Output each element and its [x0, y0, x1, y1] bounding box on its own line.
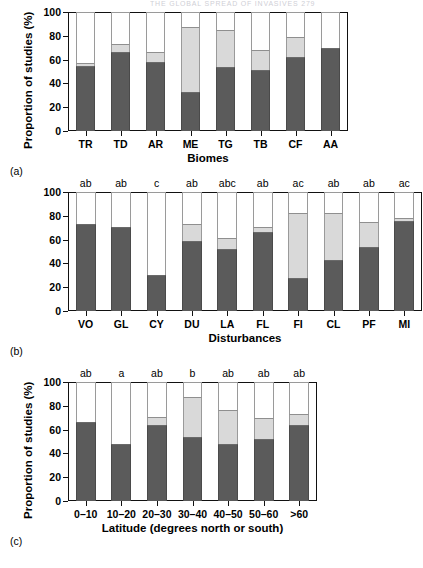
x-tick	[296, 131, 297, 136]
stacked-bar[interactable]	[147, 192, 167, 311]
stacked-bar[interactable]	[182, 192, 202, 311]
bar-slot[interactable]	[174, 192, 209, 311]
bar-slot[interactable]	[103, 192, 138, 311]
bar-segment-light-gray	[286, 37, 306, 57]
bar-slot[interactable]	[139, 382, 175, 501]
bar-segment-white	[218, 382, 238, 410]
x-tick-label: TD	[114, 138, 128, 150]
stacked-bar[interactable]	[286, 12, 306, 131]
bar-segment-white	[394, 192, 414, 218]
bar-segment-white	[183, 382, 203, 397]
stacked-bar[interactable]	[254, 382, 274, 501]
bar-segment-white	[146, 12, 166, 52]
x-tick	[86, 501, 87, 506]
bar-slot[interactable]	[281, 382, 317, 501]
bar-slot[interactable]	[210, 192, 245, 311]
bar-slot[interactable]	[68, 382, 104, 501]
bar-segment-dark-gray	[146, 62, 166, 131]
bar-segment-light-gray	[359, 222, 379, 247]
bar-segment-white	[288, 192, 308, 213]
stacked-bar[interactable]	[76, 12, 96, 131]
stacked-bar[interactable]	[218, 382, 238, 501]
stacked-bar[interactable]	[111, 12, 131, 131]
x-tick-label: CF	[289, 138, 303, 150]
bar-slot[interactable]	[175, 382, 211, 501]
bar-slot[interactable]	[104, 382, 140, 501]
stacked-bar[interactable]	[111, 382, 131, 501]
stacked-bar[interactable]	[359, 192, 379, 311]
bar-slot[interactable]	[316, 192, 351, 311]
bar-group	[68, 192, 422, 311]
y-tick-label: 60	[49, 424, 61, 436]
bar-slot[interactable]	[68, 12, 103, 131]
bar-slot[interactable]	[208, 12, 243, 131]
stacked-bar[interactable]	[321, 12, 341, 131]
x-tick	[192, 311, 193, 316]
bar-slot[interactable]	[210, 382, 246, 501]
y-tick-label: 100	[43, 186, 61, 198]
bar-slot[interactable]	[313, 12, 348, 131]
bar-segment-dark-gray	[183, 437, 203, 501]
x-tick-label: LA	[220, 318, 234, 330]
x-tick-label: MI	[398, 318, 410, 330]
x-tick-label: TG	[218, 138, 233, 150]
y-tick-label: 0	[55, 125, 61, 137]
bar-slot[interactable]	[387, 192, 422, 311]
bar-segment-light-gray	[289, 414, 309, 425]
bar-segment-dark-gray	[147, 425, 167, 501]
bar-segment-white	[321, 12, 341, 48]
bar-segment-white	[147, 382, 167, 417]
bar-segment-dark-gray	[288, 278, 308, 311]
stacked-bar[interactable]	[76, 192, 96, 311]
stacked-bar[interactable]	[251, 12, 271, 131]
x-tick-label: 40–50	[213, 508, 242, 520]
y-tick-label: 0	[55, 495, 61, 507]
bar-segment-light-gray	[216, 30, 236, 67]
bar-group	[68, 12, 348, 131]
stacked-bar[interactable]	[253, 192, 273, 311]
stacked-bar[interactable]	[217, 192, 237, 311]
stacked-bar[interactable]	[324, 192, 344, 311]
panel-b: Proportion of studies (%)020406080100VOa…	[0, 192, 423, 378]
stacked-bar[interactable]	[288, 192, 308, 311]
x-tick	[263, 311, 264, 316]
stacked-bar[interactable]	[76, 382, 96, 501]
y-axis-label: Proportion of studies (%)	[22, 30, 36, 149]
bar-segment-dark-gray	[286, 57, 306, 131]
stacked-bar[interactable]	[289, 382, 309, 501]
stacked-bar[interactable]	[183, 382, 203, 501]
stacked-bar[interactable]	[146, 12, 166, 131]
significance-annotation: ab	[257, 177, 269, 189]
bar-segment-light-gray	[324, 213, 344, 259]
x-tick-label: TR	[79, 138, 93, 150]
bar-slot[interactable]	[103, 12, 138, 131]
stacked-bar[interactable]	[181, 12, 201, 131]
plot-area-c: 0204060801000–10ab10–20a20–30ab30–40b40–…	[68, 382, 317, 501]
stacked-bar[interactable]	[394, 192, 414, 311]
significance-annotation: ab	[328, 177, 340, 189]
y-tick-label: 40	[49, 447, 61, 459]
bar-slot[interactable]	[245, 192, 280, 311]
bar-slot[interactable]	[351, 192, 386, 311]
stacked-bar[interactable]	[111, 192, 131, 311]
stacked-bar[interactable]	[216, 12, 236, 131]
x-tick	[264, 501, 265, 506]
bar-segment-dark-gray	[324, 260, 344, 311]
bar-slot[interactable]	[173, 12, 208, 131]
significance-annotation: ab	[151, 367, 163, 379]
bar-segment-white	[76, 192, 96, 224]
bar-slot[interactable]	[243, 12, 278, 131]
bar-segment-dark-gray	[321, 48, 341, 131]
x-tick	[261, 131, 262, 136]
bar-slot[interactable]	[68, 192, 103, 311]
stacked-bar[interactable]	[147, 382, 167, 501]
bar-slot[interactable]	[278, 12, 313, 131]
bar-slot[interactable]	[280, 192, 315, 311]
bar-slot[interactable]	[246, 382, 282, 501]
bar-slot[interactable]	[139, 192, 174, 311]
x-tick	[299, 501, 300, 506]
bar-segment-dark-gray	[251, 70, 271, 131]
bar-segment-white	[251, 12, 271, 50]
bar-slot[interactable]	[138, 12, 173, 131]
bar-segment-white	[359, 192, 379, 222]
